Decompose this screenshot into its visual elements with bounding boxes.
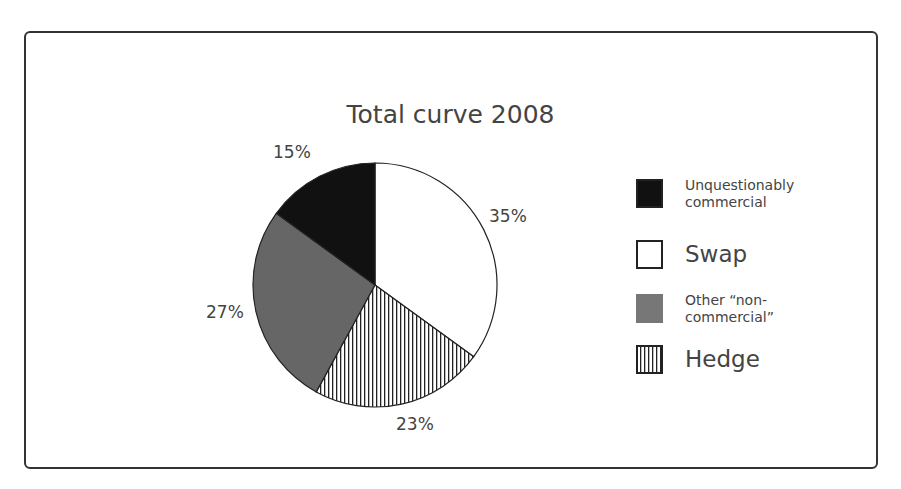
legend-item-swap: Swap — [636, 240, 747, 269]
legend-label-line: Unquestionably — [685, 177, 794, 194]
swatch-gray-icon — [636, 294, 663, 323]
label-swap: 35% — [489, 206, 527, 226]
legend-label-line: commercial — [685, 194, 794, 211]
label-other: 27% — [206, 302, 244, 322]
swatch-white-icon — [636, 240, 663, 269]
legend-item-commercial: Unquestionably commercial — [636, 177, 794, 211]
legend-item-other: Other “non- commercial” — [636, 292, 774, 326]
swatch-black-icon — [636, 179, 663, 208]
label-commercial: 15% — [273, 142, 311, 162]
legend-label-line: commercial” — [685, 309, 774, 326]
legend-label-line: Other “non- — [685, 292, 774, 309]
swatch-striped-icon — [636, 345, 663, 374]
label-hedge: 23% — [396, 414, 434, 434]
legend-label: Swap — [685, 241, 747, 269]
pie-chart — [0, 0, 901, 489]
legend-item-hedge: Hedge — [636, 345, 760, 374]
legend-label: Hedge — [685, 346, 760, 374]
